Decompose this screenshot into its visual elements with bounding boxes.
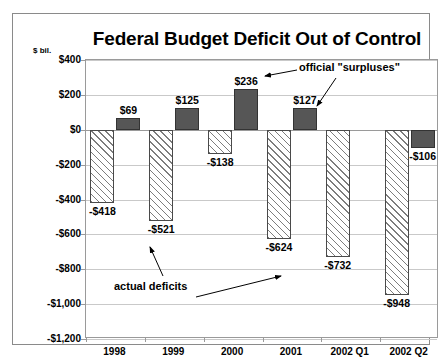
y-axis-tick bbox=[81, 269, 86, 270]
x-axis-tick-label: 2000 bbox=[221, 346, 243, 357]
y-axis-tick bbox=[81, 60, 86, 61]
bar-actual-deficits-1999 bbox=[149, 130, 173, 221]
y-axis-tick-label: $0 bbox=[70, 123, 81, 134]
bar-official-surpluses--2002-Q2 bbox=[411, 130, 435, 148]
y-axis-tick-label: -$1,000 bbox=[47, 298, 81, 309]
bar-value-label: $127 bbox=[293, 94, 316, 106]
y-axis-tick-label: -$1,200 bbox=[47, 333, 81, 344]
annotation-official-surpluses: official "surpluses" bbox=[299, 61, 400, 73]
bar-value-label: $125 bbox=[176, 94, 199, 106]
x-axis-tick bbox=[321, 337, 322, 342]
bar-value-label: -$732 bbox=[324, 259, 351, 271]
bar-official-surpluses--1999 bbox=[175, 108, 199, 130]
bar-value-label: -$521 bbox=[148, 223, 175, 235]
gridline bbox=[86, 339, 437, 340]
bar-actual-deficits-1998 bbox=[90, 130, 114, 203]
bar-actual-deficits-2002-Q2 bbox=[385, 130, 409, 295]
x-axis-tick bbox=[263, 337, 264, 342]
y-axis-tick-label: -$600 bbox=[55, 228, 81, 239]
bar-official-surpluses--2001 bbox=[293, 108, 317, 130]
page-title: Federal Budget Deficit Out of Control bbox=[73, 28, 441, 50]
x-axis-tick-label: 2002 Q2 bbox=[389, 346, 427, 357]
bar-value-label: -$106 bbox=[409, 150, 436, 162]
bar-value-label: -$138 bbox=[207, 156, 234, 168]
x-axis-tick-label: 2002 Q1 bbox=[331, 346, 369, 357]
x-axis-tick-label: 1999 bbox=[162, 346, 184, 357]
x-axis-tick bbox=[204, 337, 205, 342]
y-axis-tick bbox=[81, 304, 86, 305]
bar-official-surpluses--1998 bbox=[116, 118, 140, 130]
bar-value-label: -$418 bbox=[89, 205, 116, 217]
y-axis-tick bbox=[81, 95, 86, 96]
y-axis-tick bbox=[81, 165, 86, 166]
chart-frame: Federal Budget Deficit Out of Control $ … bbox=[12, 13, 430, 345]
y-axis-tick bbox=[81, 200, 86, 201]
bar-actual-deficits-2001 bbox=[267, 130, 291, 239]
x-axis-tick-label: 2001 bbox=[280, 346, 302, 357]
bar-value-label: -$948 bbox=[383, 297, 410, 309]
y-axis-tick-label: $200 bbox=[59, 88, 81, 99]
y-axis-tick-label: -$200 bbox=[55, 158, 81, 169]
bar-value-label: $69 bbox=[120, 104, 138, 116]
bar-value-label: $236 bbox=[234, 75, 257, 87]
plot-area: -$418-$521-$138-$624-$732-$948$69$125$23… bbox=[85, 59, 438, 338]
y-axis-labels: $400$200$0-$200-$400-$600-$800-$1,000-$1… bbox=[13, 59, 81, 338]
x-axis-tick bbox=[145, 337, 146, 342]
x-axis-tick-label: 1998 bbox=[103, 346, 125, 357]
bar-official-surpluses--2000 bbox=[234, 89, 258, 130]
y-axis-tick bbox=[81, 234, 86, 235]
y-axis-tick-label: -$400 bbox=[55, 193, 81, 204]
bar-actual-deficits-2000 bbox=[208, 130, 232, 154]
gridline bbox=[86, 95, 437, 96]
y-axis-tick-label: $400 bbox=[59, 54, 81, 65]
y-axis-tick-label: -$800 bbox=[55, 263, 81, 274]
x-axis-tick bbox=[86, 337, 87, 342]
x-axis-labels: 19981999200020012002 Q12002 Q2 bbox=[85, 343, 438, 363]
annotation-actual-deficits: actual deficits bbox=[114, 280, 187, 292]
bar-value-label: -$624 bbox=[265, 241, 292, 253]
y-axis-tick bbox=[81, 130, 86, 131]
axis-unit-label: $ bil. bbox=[33, 46, 51, 55]
bar-actual-deficits-2002-Q1 bbox=[326, 130, 350, 258]
x-axis-tick bbox=[380, 337, 381, 342]
